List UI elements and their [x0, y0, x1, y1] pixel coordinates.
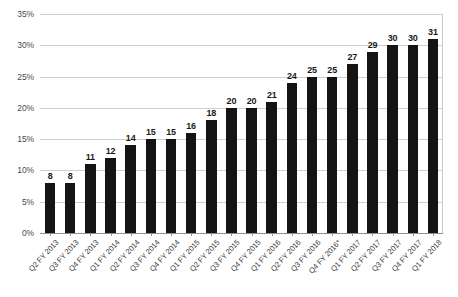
x-axis-tick-mark: [90, 233, 91, 236]
bar-group[interactable]: 20: [221, 14, 241, 233]
bar[interactable]: [408, 45, 419, 233]
x-axis-tick-mark: [393, 233, 394, 236]
x-axis-tick-mark: [252, 233, 253, 236]
y-axis-tick-label: 5%: [0, 197, 34, 207]
bar-value-label: 16: [181, 121, 201, 131]
bar[interactable]: [206, 120, 217, 233]
x-axis-tick-mark: [111, 233, 112, 236]
bar-value-label: 14: [121, 133, 141, 143]
bar-group[interactable]: 18: [201, 14, 221, 233]
y-axis-tick-label: 25%: [0, 72, 34, 82]
bar[interactable]: [105, 158, 116, 233]
x-axis-tick-mark: [131, 233, 132, 236]
bar[interactable]: [146, 139, 157, 233]
x-axis-tick-mark: [312, 233, 313, 236]
x-axis-tick-mark: [211, 233, 212, 236]
bar-group[interactable]: 15: [161, 14, 181, 233]
bar[interactable]: [387, 45, 398, 233]
bar[interactable]: [186, 133, 197, 233]
bar-group[interactable]: 11: [80, 14, 100, 233]
x-axis-tick-mark: [231, 233, 232, 236]
bar-value-label: 31: [423, 27, 443, 37]
bar-value-label: 25: [302, 65, 322, 75]
bar[interactable]: [367, 52, 378, 233]
x-axis-tick-mark: [70, 233, 71, 236]
bar-group[interactable]: 29: [362, 14, 382, 233]
bar-group[interactable]: 31: [423, 14, 443, 233]
bar-value-label: 25: [322, 65, 342, 75]
bar-group[interactable]: 30: [403, 14, 423, 233]
bar-value-label: 24: [282, 71, 302, 81]
bar-group[interactable]: 14: [121, 14, 141, 233]
bar-value-label: 11: [80, 152, 100, 162]
bar-value-label: 8: [40, 171, 60, 181]
y-axis-tick-label: 10%: [0, 165, 34, 175]
bar-group[interactable]: 30: [383, 14, 403, 233]
bar-group[interactable]: 15: [141, 14, 161, 233]
bar[interactable]: [287, 83, 298, 233]
bar-group[interactable]: 20: [242, 14, 262, 233]
x-axis-tick-mark: [50, 233, 51, 236]
bar-value-label: 15: [141, 127, 161, 137]
x-axis-tick-mark: [151, 233, 152, 236]
bars-layer: 88111214151516182020212425252729303031: [40, 14, 443, 233]
bar-value-label: 30: [403, 33, 423, 43]
bar-value-label: 30: [383, 33, 403, 43]
y-axis-tick-label: 30%: [0, 40, 34, 50]
x-axis-tick-mark: [433, 233, 434, 236]
bar-group[interactable]: 24: [282, 14, 302, 233]
x-axis-tick-mark: [332, 233, 333, 236]
bar[interactable]: [428, 39, 439, 233]
x-axis-tick-mark: [352, 233, 353, 236]
bar[interactable]: [85, 164, 96, 233]
x-axis-tick-mark: [272, 233, 273, 236]
bar[interactable]: [347, 64, 358, 233]
y-axis-tick-label: 20%: [0, 103, 34, 113]
bar-group[interactable]: 8: [40, 14, 60, 233]
bar[interactable]: [226, 108, 237, 233]
bar-group[interactable]: 12: [100, 14, 120, 233]
bar[interactable]: [246, 108, 257, 233]
x-axis-tick-mark: [292, 233, 293, 236]
bar-group[interactable]: 27: [342, 14, 362, 233]
y-axis-tick-label: 35%: [0, 9, 34, 19]
bar-value-label: 12: [100, 146, 120, 156]
bar-value-label: 27: [342, 52, 362, 62]
bar[interactable]: [266, 102, 277, 233]
bar[interactable]: [45, 183, 56, 233]
y-axis-tick-label: 0%: [0, 228, 34, 238]
x-axis-tick-mark: [413, 233, 414, 236]
bar[interactable]: [65, 183, 76, 233]
bar-group[interactable]: 25: [322, 14, 342, 233]
bar-value-label: 21: [262, 90, 282, 100]
bar[interactable]: [125, 145, 136, 233]
bar-chart: 88111214151516182020212425252729303031 Q…: [0, 0, 458, 297]
bar-value-label: 15: [161, 127, 181, 137]
bar[interactable]: [166, 139, 177, 233]
bar-value-label: 20: [242, 96, 262, 106]
y-axis-tick-label: 15%: [0, 134, 34, 144]
bar-group[interactable]: 8: [60, 14, 80, 233]
x-axis-tick-mark: [171, 233, 172, 236]
bar-group[interactable]: 25: [302, 14, 322, 233]
bar-value-label: 18: [201, 108, 221, 118]
x-axis-tick-mark: [191, 233, 192, 236]
x-axis-tick-mark: [372, 233, 373, 236]
bar[interactable]: [327, 77, 338, 233]
bar-value-label: 29: [362, 40, 382, 50]
bar-value-label: 8: [60, 171, 80, 181]
bar-group[interactable]: 16: [181, 14, 201, 233]
bar-group[interactable]: 21: [262, 14, 282, 233]
bar[interactable]: [307, 77, 318, 233]
x-axis: Q2 FY 2013Q3 FY 2013Q4 FY 2013Q1 FY 2014…: [40, 233, 443, 297]
bar-value-label: 20: [221, 96, 241, 106]
